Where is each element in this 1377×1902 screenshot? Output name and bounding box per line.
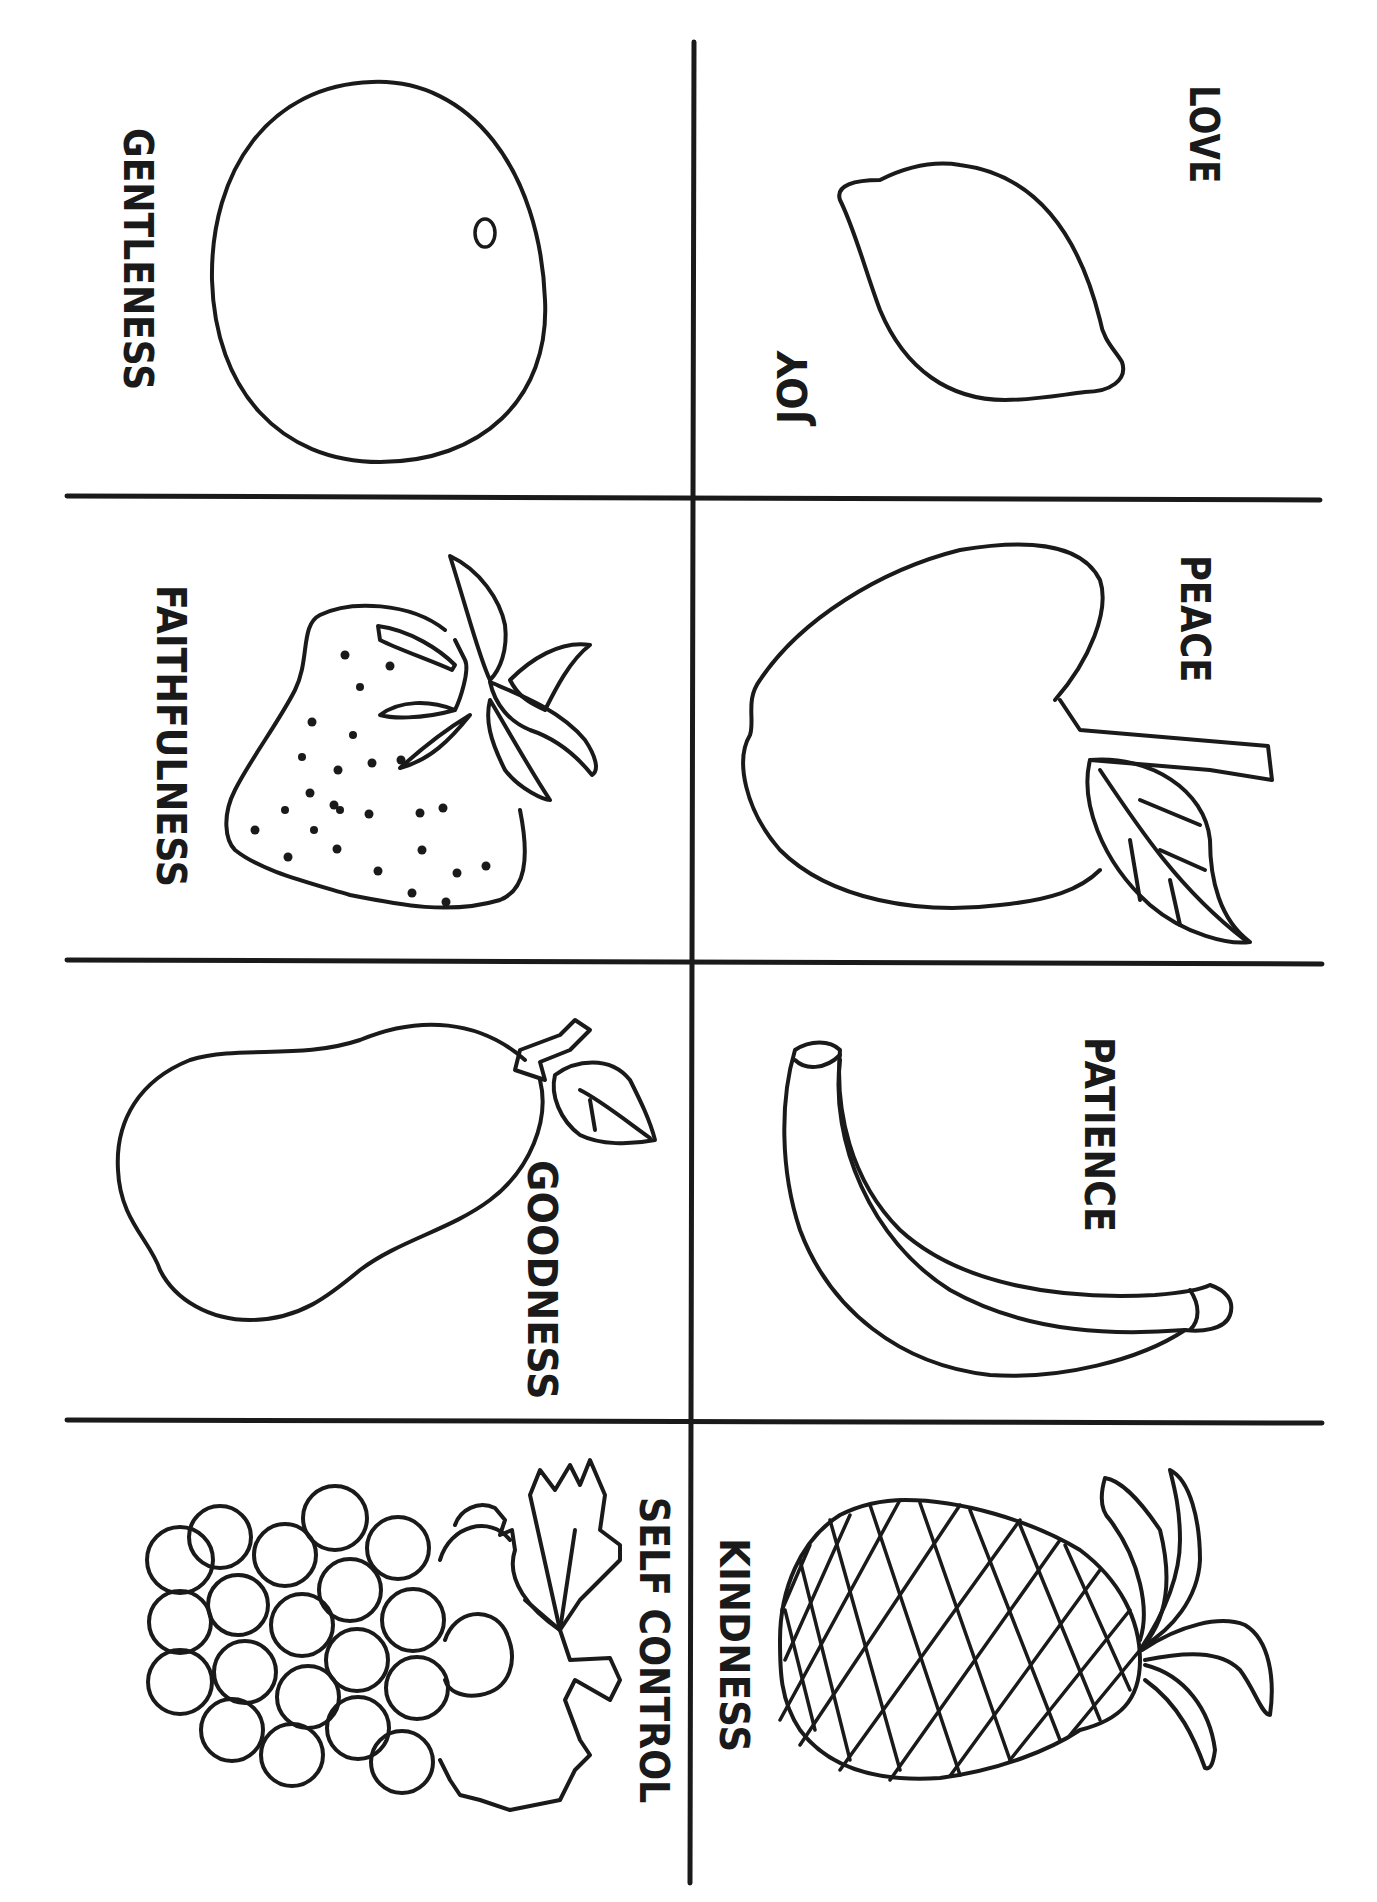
label-love: LOVE <box>1184 85 1224 183</box>
banana-drawing <box>784 1043 1231 1376</box>
label-faithfulness: FAITHFULNESS <box>151 585 191 887</box>
label-goodness: GOODNESS <box>522 1160 562 1400</box>
grapes-drawing <box>147 1460 620 1810</box>
coloring-page: LOVE JOY GENTLENESS PEACE FAITHFULNESS P… <box>0 0 1377 1902</box>
horizontal-divider-2 <box>67 960 1322 964</box>
label-kindness: KINDNESS <box>714 1538 754 1752</box>
fruit-artwork <box>0 0 1377 1902</box>
label-self-control: SELF CONTROL <box>634 1497 674 1803</box>
lemon-drawing <box>839 164 1123 400</box>
label-gentleness: GENTLENESS <box>118 128 158 390</box>
orange-drawing <box>212 82 545 462</box>
pineapple-drawing <box>780 1470 1272 1780</box>
strawberry-seeds <box>251 651 491 907</box>
label-joy: JOY <box>773 351 813 424</box>
label-patience: PATIENCE <box>1079 1037 1119 1232</box>
horizontal-divider-3 <box>67 1420 1322 1423</box>
pear-drawing <box>118 1020 655 1320</box>
pineapple-crosshatch <box>780 1500 1140 1780</box>
label-peace: PEACE <box>1175 555 1215 682</box>
grid-lines <box>67 42 1322 1883</box>
horizontal-divider-1 <box>67 496 1320 500</box>
strawberry-drawing <box>226 556 596 908</box>
